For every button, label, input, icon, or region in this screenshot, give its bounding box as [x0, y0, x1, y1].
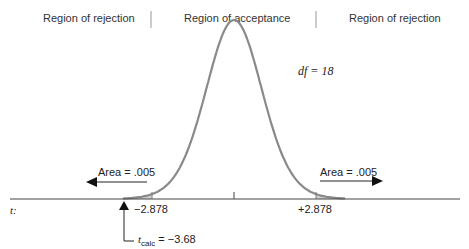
df-label: df = 18 [298, 64, 333, 79]
tcalc-label: tcalc = −3.68 [138, 233, 196, 248]
left-area-label: Area = .005 [98, 166, 155, 178]
tcalc-arrowhead [119, 201, 129, 210]
t-distribution-diagram [0, 0, 469, 249]
tcalc-subscript: calc [141, 239, 155, 248]
left-area-arrowhead [86, 177, 97, 187]
tcalc-pointer-line [124, 210, 134, 241]
left-critical-value: −2.878 [134, 203, 168, 215]
axis-label: t: [10, 204, 17, 216]
right-critical-value: +2.878 [298, 203, 332, 215]
t-distribution-curve [123, 20, 345, 199]
tcalc-value: = −3.68 [158, 233, 195, 245]
right-area-label: Area = .005 [320, 166, 377, 178]
